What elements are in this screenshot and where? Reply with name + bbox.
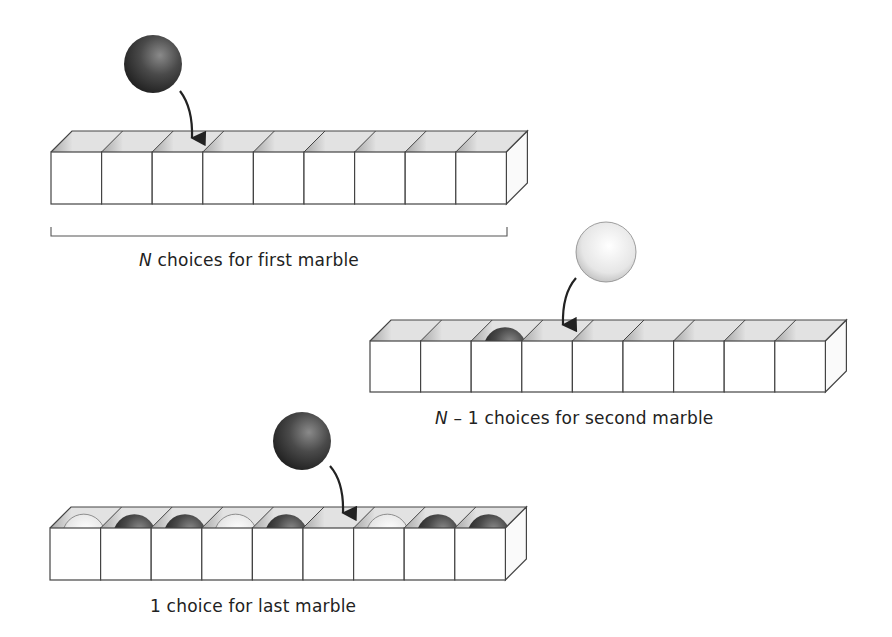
caption-variable: N [139,250,152,270]
drop-arrow-icon [563,278,576,325]
light-marble-falling [576,222,636,282]
box-front-face [51,152,102,204]
box-front-face [421,341,472,392]
box-front-face [355,152,406,204]
box-front-face [354,528,405,580]
box-front-face [50,528,101,580]
box-front-face [203,152,254,204]
marble-placement-diagram [0,0,892,637]
box-front-face [456,152,507,204]
box-row-second [370,320,846,392]
box-front-face [572,341,623,392]
box-front-face [101,528,152,580]
box-front-face [455,528,506,580]
caption-text: – 1 choices for second marble [448,408,714,428]
box-front-face [253,152,304,204]
span-bracket [51,227,507,236]
caption-first-marble: N choices for first marble [139,250,359,270]
box-front-face [152,152,203,204]
caption-last-marble: 1 choice for last marble [150,596,356,616]
dark-marble-falling [124,35,182,93]
caption-second-marble: N – 1 choices for second marble [435,408,714,428]
box-front-face [151,528,202,580]
box-front-face [522,341,573,392]
box-front-face [102,152,153,204]
box-front-face [304,152,355,204]
drop-arrow-icon [330,466,343,513]
dark-marble-falling [273,412,331,470]
box-row-first [51,131,527,204]
box-front-face [202,528,253,580]
caption-text: 1 choice for last marble [150,596,356,616]
box-front-face [252,528,303,580]
box-front-face [471,341,522,392]
box-front-face [623,341,674,392]
box-row-last [50,507,526,580]
caption-text: choices for first marble [152,250,359,270]
box-front-face [775,341,826,392]
box-front-face [404,528,455,580]
box-front-face [370,341,421,392]
box-front-face [405,152,456,204]
box-front-face [674,341,725,392]
caption-variable: N [435,408,448,428]
box-front-face [303,528,354,580]
box-front-face [724,341,775,392]
